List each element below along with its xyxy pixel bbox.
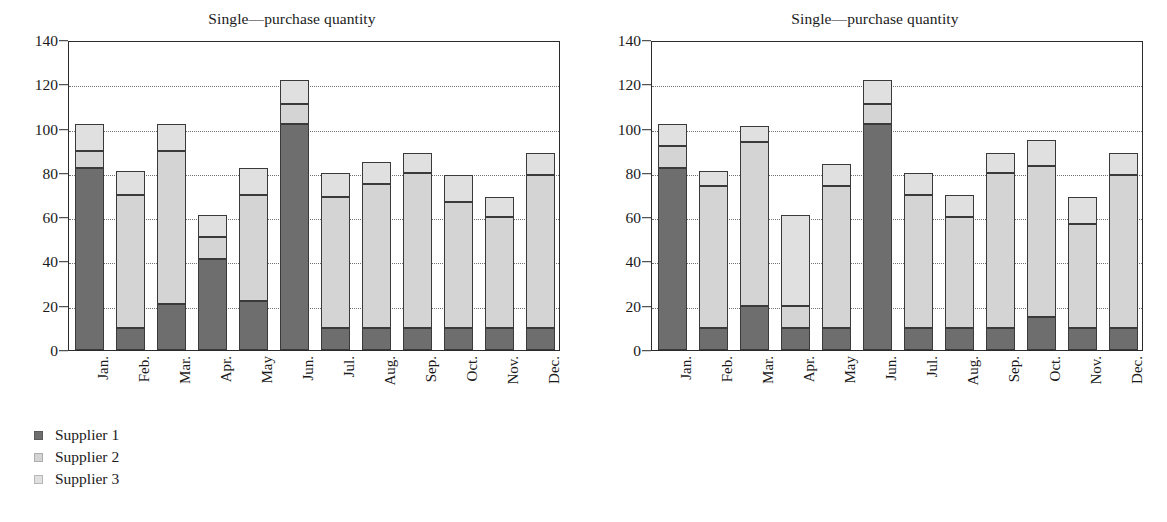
stacked-bar (863, 80, 892, 350)
x-tick-label: May (842, 356, 859, 384)
x-tick-label: Feb. (719, 356, 736, 382)
stacked-bar (485, 197, 514, 350)
bar-segment-supplier-3 (863, 80, 892, 104)
x-tick-label: Jan. (95, 356, 112, 380)
x-tick-label: Apr. (801, 356, 818, 382)
stacked-bar (444, 175, 473, 350)
y-tick-label: 140 (597, 32, 641, 50)
x-tick-label: Jun. (300, 356, 317, 381)
x-axis-labels-left: Jan.Feb.Mar.Apr.MayJun.Jul.Aug.Sep.Oct.N… (68, 354, 560, 420)
bar-segment-supplier-1 (75, 168, 104, 350)
x-tick-label: Jul. (924, 356, 941, 377)
bar-segment-supplier-1 (658, 168, 687, 350)
legend-left: Supplier 1Supplier 2Supplier 3 (34, 424, 119, 490)
y-axis-labels-right: 020406080100120140 (595, 41, 641, 351)
bar-segment-supplier-1 (904, 328, 933, 350)
x-tick-label: Nov. (1088, 356, 1105, 385)
bar-segment-supplier-3 (1109, 153, 1138, 175)
x-tick-label: May (259, 356, 276, 384)
chart-title-right: Single—purchase quantity (583, 10, 1167, 28)
x-tick-label: Mar. (760, 356, 777, 384)
y-tick-mark (642, 262, 651, 263)
y-tick-label: 20 (597, 298, 641, 316)
bar-segment-supplier-3 (1068, 197, 1097, 224)
bar-segment-supplier-2 (699, 186, 728, 328)
bar-segment-supplier-2 (157, 151, 186, 304)
y-axis-labels-left: 020406080100120140 (12, 41, 58, 351)
bar-segment-supplier-1 (403, 328, 432, 350)
legend-swatch-icon (34, 475, 43, 484)
bar-segment-supplier-1 (321, 328, 350, 350)
bar-segment-supplier-3 (740, 126, 769, 142)
y-tick-label: 120 (14, 76, 58, 94)
stacked-bar (362, 162, 391, 350)
stacked-bar (239, 168, 268, 350)
bar-segment-supplier-3 (321, 173, 350, 197)
legend-label: Supplier 3 (55, 471, 119, 487)
y-tick-mark (642, 84, 651, 85)
bar-group-right (652, 42, 1142, 350)
y-tick-label: 60 (14, 209, 58, 227)
y-tick-label: 120 (597, 76, 641, 94)
stacked-bar (321, 173, 350, 350)
y-tick-label: 40 (597, 253, 641, 271)
bar-segment-supplier-2 (526, 175, 555, 328)
bar-segment-supplier-3 (157, 124, 186, 151)
stacked-bar (75, 124, 104, 350)
bar-segment-supplier-1 (485, 328, 514, 350)
bar-segment-supplier-2 (403, 173, 432, 328)
bar-segment-supplier-3 (239, 168, 268, 195)
y-tick-label: 100 (597, 121, 641, 139)
y-tick-mark (642, 173, 651, 174)
bar-segment-supplier-2 (116, 195, 145, 328)
stacked-bar (904, 173, 933, 350)
chart-panel-left: Single—purchase quantity 020406080100120… (0, 0, 584, 522)
plot-area-right (651, 41, 1143, 351)
y-tick-label: 60 (597, 209, 641, 227)
bar-segment-supplier-1 (444, 328, 473, 350)
legend-item: Supplier 3 (34, 468, 119, 490)
bar-segment-supplier-1 (1027, 317, 1056, 350)
stacked-bar (1068, 197, 1097, 350)
bar-segment-supplier-1 (157, 304, 186, 351)
legend-label: Supplier 2 (55, 449, 119, 465)
bar-segment-supplier-1 (280, 124, 309, 350)
bar-segment-supplier-3 (986, 153, 1015, 173)
stacked-bar (986, 153, 1015, 350)
legend-swatch-icon (34, 431, 43, 440)
y-tick-mark (59, 350, 68, 351)
bar-segment-supplier-1 (1068, 328, 1097, 350)
stacked-bar (198, 215, 227, 350)
x-tick-label: Aug. (965, 356, 982, 386)
stacked-bar (403, 153, 432, 350)
stacked-bar (157, 124, 186, 350)
bar-segment-supplier-2 (444, 202, 473, 328)
legend-label: Supplier 1 (55, 427, 119, 443)
bar-segment-supplier-3 (781, 215, 810, 306)
x-tick-label: Sep. (423, 356, 440, 382)
y-tick-mark (642, 129, 651, 130)
bar-segment-supplier-1 (362, 328, 391, 350)
stacked-bar (781, 215, 810, 350)
bar-segment-supplier-2 (822, 186, 851, 328)
y-tick-mark (642, 217, 651, 218)
stacked-bar (740, 126, 769, 350)
stacked-bar (280, 80, 309, 350)
bar-segment-supplier-1 (822, 328, 851, 350)
bar-segment-supplier-1 (699, 328, 728, 350)
bar-segment-supplier-3 (945, 195, 974, 217)
bar-segment-supplier-2 (1109, 175, 1138, 328)
bar-segment-supplier-3 (75, 124, 104, 151)
bar-segment-supplier-2 (321, 197, 350, 328)
bar-segment-supplier-1 (863, 124, 892, 350)
bar-segment-supplier-3 (1027, 140, 1056, 167)
x-tick-label: Apr. (218, 356, 235, 382)
y-tick-mark (642, 40, 651, 41)
bar-segment-supplier-1 (740, 306, 769, 350)
stacked-bar (945, 195, 974, 350)
y-tick-mark (59, 84, 68, 85)
x-tick-label: Feb. (136, 356, 153, 382)
bar-segment-supplier-2 (658, 146, 687, 168)
figure-canvas: Single—purchase quantity 020406080100120… (0, 0, 1167, 522)
bar-segment-supplier-3 (904, 173, 933, 195)
